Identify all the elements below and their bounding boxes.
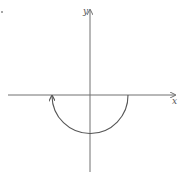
y-axis-label: y <box>82 6 89 16</box>
diagram-canvas: x y <box>0 0 180 174</box>
x-axis-label: x <box>172 96 177 106</box>
corner-mark <box>1 11 3 13</box>
